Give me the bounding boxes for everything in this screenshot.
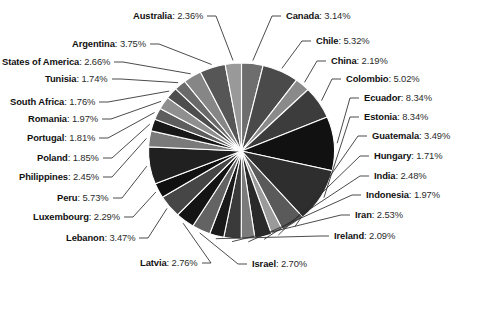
slice-label: China: 2.19% [331, 55, 388, 66]
slice-label-name: Argentina [72, 38, 115, 49]
slice-label-name: Israel [252, 258, 276, 269]
slice-label-percent: 5.73% [82, 192, 108, 203]
slice-label: Poland: 1.85% [37, 152, 99, 163]
leader-line [113, 166, 147, 198]
slice-label-name: Chile [316, 35, 338, 46]
slice-label-percent: 2.19% [362, 55, 388, 66]
slice-label-percent: 2.70% [281, 258, 307, 269]
slice-label-name: South Africa [10, 96, 64, 107]
slice-label: Iran: 2.53% [355, 209, 403, 220]
slice-label: Guatemala: 3.49% [372, 130, 450, 141]
slice-label-name: Hungary [374, 150, 411, 161]
slice-label-name: Poland [37, 152, 68, 163]
slice-label-percent: 1.85% [73, 152, 99, 163]
slice-label-percent: 1.97% [72, 113, 98, 124]
slice-label: Lebanon: 3.47% [66, 232, 135, 243]
slice-label-name: Latvia [140, 257, 167, 268]
slice-label-name: Estonia [364, 111, 397, 122]
slice-label-percent: 2.76% [172, 257, 198, 268]
leader-line [124, 192, 156, 217]
slice-label-name: Tunisia [45, 73, 76, 84]
slice-label-name: Ireland [334, 230, 364, 241]
slice-label: Indonesia: 1.97% [366, 189, 440, 200]
slice-label-name: Ecuador [364, 92, 401, 103]
slice-label-percent: 2.09% [369, 230, 395, 241]
slice-label-percent: 5.32% [343, 35, 369, 46]
slice-label: States of America: 2.66% [2, 56, 110, 67]
slice-label-name: Romania [28, 113, 67, 124]
slice-label-name: Luxembourg [33, 211, 89, 222]
slice-label-name: Canada [286, 10, 319, 21]
slice-label-name: Philippines [19, 171, 68, 182]
leader-line [112, 79, 178, 83]
pie-chart-visualization: Canada: 3.14%Chile: 5.32%China: 2.19%Col… [0, 0, 477, 332]
slice-label-name: Portugal [27, 132, 64, 143]
slice-label: Ireland: 2.09% [334, 230, 395, 241]
slice-label: Chile: 5.32% [316, 35, 370, 46]
slice-label: Estonia: 8.34% [364, 111, 428, 122]
slice-label-percent: 1.76% [69, 96, 95, 107]
leader-line [99, 91, 169, 102]
slice-label-percent: 2.66% [84, 56, 110, 67]
leader-line [200, 233, 247, 264]
slice-label-name: States of America [2, 56, 79, 67]
slice-label-name: Lebanon [66, 232, 104, 243]
slice-label: Hungary: 1.71% [374, 150, 442, 161]
slice-label-percent: 3.14% [324, 10, 350, 21]
slice-label: Peru: 5.73% [57, 192, 109, 203]
slice-label-percent: 1.74% [81, 73, 107, 84]
slice-label: South Africa: 1.76% [10, 96, 95, 107]
leader-line [216, 236, 329, 239]
leader-line [322, 79, 342, 101]
slice-label-percent: 3.49% [424, 130, 450, 141]
slice-label-percent: 3.75% [120, 38, 146, 49]
slice-label: Colombio: 5.02% [346, 73, 420, 84]
slice-label-name: Colombio [346, 73, 388, 84]
slice-label-name: Australia [133, 10, 172, 21]
leader-line [103, 124, 150, 158]
slice-label: Tunisia: 1.74% [45, 73, 108, 84]
leader-line [253, 16, 281, 61]
slice-label-percent: 2.45% [73, 171, 99, 182]
leader-line [102, 101, 161, 119]
leader-line [278, 156, 369, 235]
leader-line [305, 61, 327, 82]
slice-label: Luxembourg: 2.29% [33, 211, 120, 222]
slice-label: Canada: 3.14% [286, 10, 350, 21]
slice-label-name: Iran [355, 209, 372, 220]
slice-label-percent: 1.97% [414, 189, 440, 200]
slice-label-percent: 3.47% [109, 232, 135, 243]
slice-label-percent: 8.34% [402, 111, 428, 122]
slice-label-name: Indonesia [366, 189, 409, 200]
leader-line [150, 44, 212, 65]
slice-label-name: Guatemala [372, 130, 419, 141]
slice-label: Portugal: 1.81% [27, 132, 95, 143]
slice-label: Ecuador: 8.34% [364, 92, 432, 103]
year-timeline[interactable]: 2005200620072008200920102011201220132014… [0, 279, 477, 332]
slice-label-name: China [331, 55, 357, 66]
slice-label-percent: 2.53% [377, 209, 403, 220]
slice-label-percent: 1.81% [69, 132, 95, 143]
leader-line [337, 98, 359, 143]
leader-line [207, 16, 233, 60]
slice-label: Argentina: 3.75% [72, 38, 146, 49]
slice-label-percent: 2.36% [177, 10, 203, 21]
slice-label-percent: 2.29% [94, 211, 120, 222]
slice-label: Philippines: 2.45% [19, 171, 99, 182]
slice-label-name: Peru [57, 192, 77, 203]
leader-line [99, 113, 155, 139]
slice-label: Romania: 1.97% [28, 113, 98, 124]
slice-label: Australia: 2.36% [133, 10, 203, 21]
slice-label: Israel: 2.70% [252, 258, 307, 269]
leader-line [282, 41, 311, 68]
slice-label: India: 2.48% [374, 170, 427, 181]
slice-label-percent: 5.02% [393, 73, 419, 84]
slice-label: Latvia: 2.76% [140, 257, 198, 268]
slice-label-name: India [374, 170, 395, 181]
leader-line [114, 62, 191, 74]
leader-line [139, 208, 167, 238]
slice-label-percent: 1.71% [416, 150, 442, 161]
slice-label-percent: 8.34% [406, 92, 432, 103]
slice-label-percent: 2.48% [400, 170, 426, 181]
